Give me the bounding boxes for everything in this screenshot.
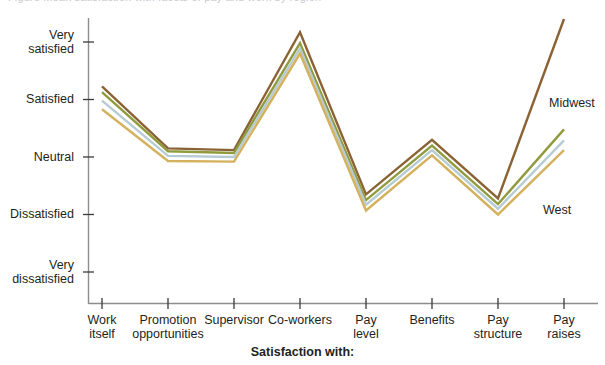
y-tick-label-1: Satisfied xyxy=(26,93,74,107)
x-tick-label-4: Pay level xyxy=(353,313,379,341)
x-tick-label-5: Benefits xyxy=(409,313,454,327)
line-chart-plot xyxy=(0,0,605,365)
series-line-Midwest xyxy=(102,19,564,198)
x-tick-label-2: Supervisor xyxy=(204,313,264,327)
series-line-series-3 xyxy=(102,48,564,208)
y-tick-label-3: Dissatisfied xyxy=(10,208,74,222)
series-label-west: West xyxy=(543,203,571,217)
axes-group xyxy=(83,18,598,309)
y-tick-label-2: Neutral xyxy=(34,151,74,165)
series-label-midwest: Midwest xyxy=(549,96,595,110)
y-tick-label-0: Very satisfied xyxy=(28,29,74,56)
x-tick-label-0: Work itself xyxy=(88,313,117,341)
x-tick-label-6: Pay structure xyxy=(474,313,523,341)
y-tick-label-4: Very dissatisfied xyxy=(12,259,74,286)
chart-container: Figure Mean satisfaction with facets of … xyxy=(0,0,605,365)
x-tick-label-3: Co-workers xyxy=(268,313,332,327)
series-lines-group xyxy=(102,19,564,215)
series-line-West xyxy=(102,54,564,215)
x-tick-label-1: Promotion opportunities xyxy=(132,313,204,341)
x-tick-label-7: Pay raises xyxy=(547,313,580,341)
x-axis-title: Satisfaction with: xyxy=(0,345,605,359)
